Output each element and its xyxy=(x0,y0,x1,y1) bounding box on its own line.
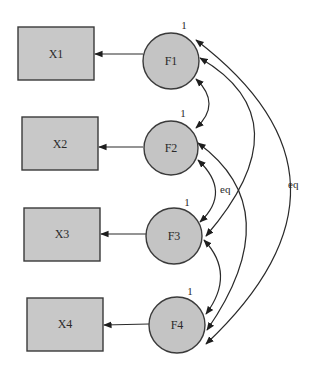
f2-variance-label: 1 xyxy=(180,107,186,119)
f1-label: F1 xyxy=(165,54,178,68)
f4-label: F4 xyxy=(171,318,184,332)
sem-diagram: X1 X2 X3 X4 F1 1 F2 1 F3 1 xyxy=(0,0,319,377)
cov-arc-f1-f3 xyxy=(200,58,255,236)
f2-label: F2 xyxy=(165,141,178,155)
cov-arc-f1-f2 xyxy=(196,79,209,128)
eq-label-outer: eq xyxy=(288,178,299,190)
latent-f4[interactable]: F4 1 xyxy=(149,285,205,353)
cov-arc-f2-f4 xyxy=(198,143,246,330)
x3-label: X3 xyxy=(55,227,70,241)
f4-variance-label: 1 xyxy=(187,285,193,297)
latent-f2[interactable]: F2 1 xyxy=(144,107,198,175)
observed-x3[interactable]: X3 xyxy=(24,208,100,261)
x4-label: X4 xyxy=(58,317,73,331)
observed-x1[interactable]: X1 xyxy=(18,27,94,80)
observed-x4[interactable]: X4 xyxy=(27,298,103,351)
f1-variance-label: 1 xyxy=(181,19,187,31)
loading-arrow-f4-x4 xyxy=(104,324,149,325)
x2-label: X2 xyxy=(53,137,68,151)
latent-f1[interactable]: F1 1 xyxy=(143,19,199,89)
f3-variance-label: 1 xyxy=(184,196,190,208)
cov-arc-f1-f4 xyxy=(196,40,291,344)
eq-label-inner: eq xyxy=(220,183,231,195)
f3-label: F3 xyxy=(168,229,181,243)
x1-label: X1 xyxy=(49,47,64,61)
latent-f3[interactable]: F3 1 xyxy=(146,196,202,264)
cov-arc-f2-f3 xyxy=(198,160,216,222)
observed-x2[interactable]: X2 xyxy=(22,117,98,170)
cov-arc-f3-f4 xyxy=(204,240,221,314)
